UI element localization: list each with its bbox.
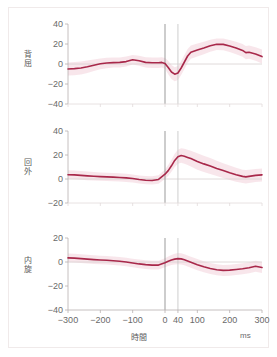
panel-2-group: −40−20020−300−200−100040100200300 [48,233,270,325]
panel-1-ytick-label: 0 [58,174,63,184]
panel-0-ylabel-c0: 背 [22,50,33,59]
panel-0-ylabel: 背 屈 [22,50,33,68]
panel-dorsiflexion: −40−2002040−2002040−40−20020−300−200−100… [0,0,277,357]
panel-1-ylabel-c0: 回 [22,158,33,167]
panel-0-ytick-label: −20 [48,79,63,89]
panel-1-ytick-label: −20 [48,198,63,208]
x-tick-label: 300 [254,315,269,325]
panel-0-ytick-label: 20 [53,39,63,49]
panel-1-ytick-label: 20 [53,150,63,160]
x-tick-label: −100 [123,315,143,325]
x-axis-unit: ms [240,331,251,340]
panel-2-ytick-label: 0 [58,257,63,267]
panel-2-ytick-label: 20 [53,233,63,243]
panel-2-ytick-label: −20 [48,281,63,291]
panel-1-ylabel: 回 外 [22,158,33,176]
x-tick-label: −300 [58,315,78,325]
panel-0-ytick-label: 0 [58,59,63,69]
x-tick-label: 200 [222,315,237,325]
x-tick-label: −200 [90,315,110,325]
x-tick-label: 0 [162,315,167,325]
panel-1-group: −2002040 [48,126,262,208]
panel-2-ylabel-c0: 内 [22,256,33,265]
panel-0-svg: −40−2002040−2002040−40−20020−300−200−100… [0,0,277,357]
panel-2-ytick-label: −40 [48,305,63,315]
panel-2-ylabel: 内 旋 [22,256,33,274]
panel-2-ylabel-c1: 旋 [22,265,33,274]
x-axis-label: 時間 [0,331,277,342]
x-tick-label: 100 [190,315,205,325]
panel-0-group: −40−2002040 [48,19,262,109]
x-tick-label: 40 [173,315,183,325]
panel-0-ylabel-c1: 屈 [22,59,33,68]
panel-1-ylabel-c1: 外 [22,167,33,176]
panel-0-ytick-label: 40 [53,19,63,29]
chart-figure: −40−2002040−2002040−40−20020−300−200−100… [0,0,277,357]
panel-1-ytick-label: 40 [53,126,63,136]
panel-0-ytick-label: −40 [48,99,63,109]
